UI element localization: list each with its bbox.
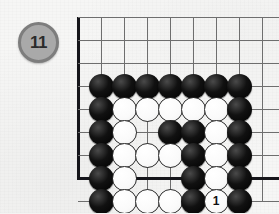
stone-numbered-1[interactable]: 1 [204, 189, 229, 214]
stone-black[interactable] [227, 189, 252, 214]
stone-black[interactable] [89, 166, 114, 191]
stone-white[interactable] [204, 97, 229, 122]
stone-white[interactable] [158, 97, 183, 122]
stone-white[interactable] [204, 166, 229, 191]
stone-black[interactable] [89, 143, 114, 168]
stone-black[interactable] [181, 189, 206, 214]
stone-white[interactable] [135, 143, 160, 168]
stone-white[interactable] [204, 120, 229, 145]
stone-black[interactable] [181, 120, 206, 145]
grid-line-horizontal [78, 40, 279, 41]
stone-white[interactable] [112, 120, 137, 145]
stone-black[interactable] [227, 97, 252, 122]
grid-line-horizontal [78, 63, 279, 64]
grid-line-horizontal [78, 17, 279, 18]
stone-black[interactable] [89, 74, 114, 99]
move-number-badge: 11 [18, 22, 59, 63]
move-number-label: 11 [30, 33, 47, 53]
stone-black[interactable] [158, 120, 183, 145]
stone-black[interactable] [89, 120, 114, 145]
go-board[interactable]: 1 [78, 17, 274, 202]
stone-black[interactable] [158, 74, 183, 99]
stone-white[interactable] [158, 189, 183, 214]
stone-black[interactable] [181, 143, 206, 168]
stone-black[interactable] [89, 189, 114, 214]
stone-black[interactable] [181, 74, 206, 99]
stone-black[interactable] [135, 74, 160, 99]
stone-black[interactable] [227, 74, 252, 99]
stone-move-label: 1 [213, 195, 220, 207]
stone-black[interactable] [227, 166, 252, 191]
stone-black[interactable] [227, 143, 252, 168]
stone-black[interactable] [112, 74, 137, 99]
stone-black[interactable] [181, 166, 206, 191]
stone-white[interactable] [181, 97, 206, 122]
stone-black[interactable] [204, 74, 229, 99]
stone-white[interactable] [135, 189, 160, 214]
stone-white[interactable] [204, 143, 229, 168]
stone-white[interactable] [158, 143, 183, 168]
stone-white[interactable] [135, 97, 160, 122]
stone-white[interactable] [112, 143, 137, 168]
stone-white[interactable] [112, 166, 137, 191]
stone-black[interactable] [89, 97, 114, 122]
stone-black[interactable] [227, 120, 252, 145]
stone-white[interactable] [112, 189, 137, 214]
stone-white[interactable] [112, 97, 137, 122]
